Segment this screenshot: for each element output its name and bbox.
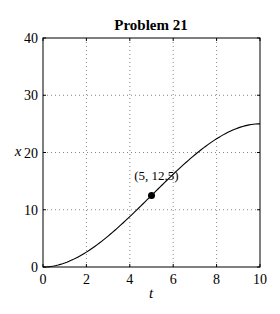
x-tick-label: 8 [213,272,220,287]
x-tick-label: 10 [253,272,267,287]
chart-title: Problem 21 [114,17,187,33]
point-annotation: (5, 12.5) [134,168,178,183]
x-axis-ticks: 0246810 [40,38,268,287]
y-tick-label: 0 [31,260,38,275]
y-axis-label: x [14,143,22,159]
x-tick-label: 0 [40,272,47,287]
y-tick-label: 40 [24,31,38,46]
x-tick-label: 4 [126,272,133,287]
y-tick-label: 20 [24,146,38,161]
x-tick-label: 6 [170,272,177,287]
chart: Problem 21 0246810 010203040 (5, 12.5) t… [0,0,280,314]
x-axis-label: t [149,285,154,301]
grid-lines [43,38,260,267]
x-tick-label: 2 [83,272,90,287]
y-tick-label: 10 [24,203,38,218]
data-point-marker [148,192,155,199]
y-tick-label: 30 [24,88,38,103]
